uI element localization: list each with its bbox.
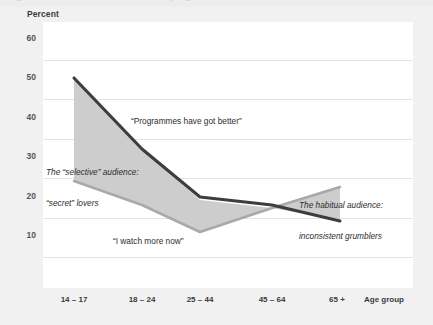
x-axis-title: Age group — [364, 295, 404, 304]
annotation-i-watch-more-now: “I watch more now” — [113, 236, 184, 246]
annotation-habitual-audience: The habitual audience: inconsistent grum… — [299, 180, 383, 261]
chart-figure: Figure: attitudes to television by age P… — [0, 0, 433, 325]
x-tick-18-24: 18 – 24 — [112, 295, 172, 304]
y-tick-20: 20 — [10, 191, 36, 201]
x-tick-65-plus: 65 + — [312, 295, 362, 304]
annotation-habitual-audience-line1: The habitual audience: — [299, 200, 383, 210]
y-tick-50: 50 — [10, 72, 36, 82]
annotation-selective-audience: The “selective” audience: “secret” lover… — [46, 147, 139, 228]
x-tick-25-44: 25 – 44 — [170, 295, 230, 304]
y-tick-40: 40 — [10, 112, 36, 122]
y-tick-10: 10 — [10, 230, 36, 240]
x-tick-45-64: 45 – 64 — [242, 295, 302, 304]
x-tick-14-17: 14 – 17 — [44, 295, 104, 304]
annotation-selective-audience-line2: “secret” lovers — [46, 198, 139, 208]
annotation-selective-audience-line1: The “selective” audience: — [46, 167, 139, 177]
y-tick-60: 60 — [10, 33, 36, 43]
y-axis-title: Percent — [27, 9, 59, 19]
annotation-habitual-audience-line2: inconsistent grumblers — [299, 231, 383, 241]
annotation-programmes-have-got-better: “Programmes have got better” — [131, 116, 242, 126]
y-tick-30: 30 — [10, 151, 36, 161]
